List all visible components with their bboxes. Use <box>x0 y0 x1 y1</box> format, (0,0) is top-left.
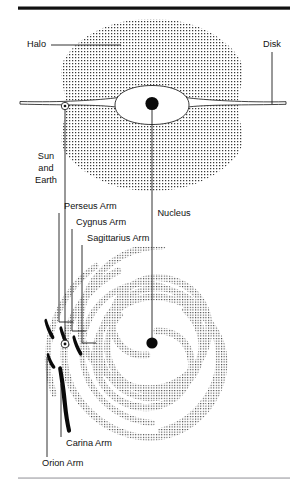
top-rule <box>18 7 290 10</box>
label-orion-arm: Orion Arm <box>42 458 84 468</box>
label-sun-line1: Sun <box>38 151 54 161</box>
sun-symbol-edge-on <box>61 102 68 109</box>
label-cygnus-arm: Cygnus Arm <box>76 217 126 227</box>
nucleus-dot-face-on <box>146 337 157 348</box>
label-carina-arm: Carina Arm <box>66 438 112 448</box>
nucleus-dot-edge-on <box>145 97 158 110</box>
sun-symbol-face-on <box>61 340 69 348</box>
bottom-rule <box>18 478 290 479</box>
label-sagittarius-arm: Sagittarius Arm <box>87 233 150 243</box>
label-sun-line3: Earth <box>35 175 57 185</box>
label-nucleus: Nucleus <box>157 208 191 218</box>
label-perseus-arm: Perseus Arm <box>64 201 117 211</box>
label-halo: Halo <box>27 39 46 49</box>
label-disk: Disk <box>263 39 281 49</box>
label-sun-line2: and <box>38 163 53 173</box>
figure-canvas: Halo Disk Sun and Earth Nucleus Perseus … <box>0 0 298 485</box>
galaxy-structure-figure: Halo Disk Sun and Earth Nucleus Perseus … <box>0 0 298 485</box>
label-sun-and-earth: Sun and Earth <box>35 151 57 185</box>
